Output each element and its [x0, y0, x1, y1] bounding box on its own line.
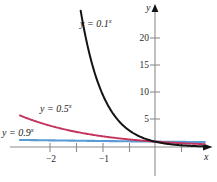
y-tick-label-20: 20 [131, 34, 149, 44]
curve-label-0p5: y = 0.5x [40, 103, 72, 114]
x-tick-label-minus1: −1 [95, 155, 113, 165]
y-axis-arrow-icon [152, 4, 159, 12]
curve-label-0p9: y = 0.9x [2, 127, 34, 138]
y-tick-label-10: 10 [131, 88, 149, 98]
x-tick-label-minus2: −2 [42, 155, 60, 165]
y-axis-label: y [146, 3, 150, 13]
x-axis-label: x [204, 152, 208, 162]
curve-0p1-to-the-x [81, 11, 205, 147]
exponential-decay-graph-figure: y = 0.1x y = 0.5x y = 0.9x y x 20 15 10 … [0, 0, 217, 182]
curve-label-0p1: y = 0.1x [80, 18, 112, 29]
curve-0p9-to-the-x [20, 140, 205, 142]
y-tick-label-5: 5 [131, 115, 149, 125]
y-tick-label-15: 15 [131, 61, 149, 71]
